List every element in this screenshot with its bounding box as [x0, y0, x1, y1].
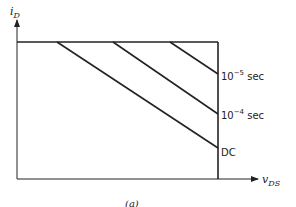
- label-dc: DC: [221, 147, 236, 158]
- curve-10e-5-sec: [170, 42, 218, 74]
- label-10e-4-sec: 10−4 sec: [221, 108, 264, 121]
- curve-10e-4-sec: [113, 42, 218, 114]
- y-axis-label: iD: [10, 5, 21, 20]
- x-axis-label: vDS: [262, 173, 281, 188]
- label-10e-5-sec: 10−5 sec: [221, 69, 264, 82]
- safe-operating-area-diagram: iD vDS 10−5 sec 10−4 sec DC (a): [0, 0, 296, 207]
- figure-caption: (a): [125, 198, 139, 207]
